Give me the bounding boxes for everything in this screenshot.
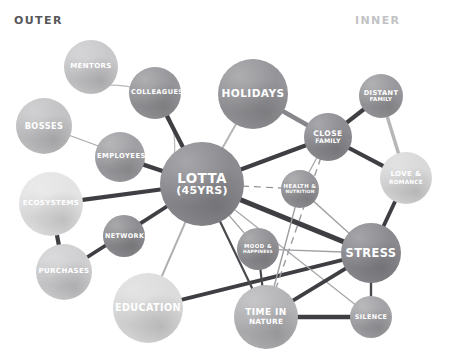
node-label-holidays: HOLIDAYS (220, 88, 286, 99)
node-education[interactable]: EDUCATION (113, 273, 183, 343)
node-close_family[interactable]: CLOSEFAMILY (304, 113, 352, 161)
node-label-mentors: MENTORS (66, 63, 116, 71)
node-label-employees: EMPLOYEES (97, 153, 143, 160)
node-label-colleagues: COLLEAGUES (131, 89, 179, 96)
node-label-ecosystems: ECOSYSTEMS (21, 200, 81, 208)
node-label-time_nature: TIME INNATURE (236, 308, 296, 326)
node-layer: MENTORSCOLLEAGUESBOSSESEMPLOYEESECOSYSTE… (0, 0, 449, 363)
node-label-lotta: LOTTA(45YRS) (162, 171, 242, 198)
node-networks[interactable]: NETWORKS (103, 215, 145, 257)
node-sublabel-distant_family: FAMILY (361, 97, 401, 103)
node-label-stress: STRESS (343, 247, 399, 259)
node-label-bosses: BOSSES (18, 122, 70, 131)
node-silence[interactable]: SILENCE (350, 296, 392, 338)
node-stress[interactable]: STRESS (341, 223, 401, 283)
node-sublabel-lotta: (45YRS) (162, 185, 242, 197)
node-label-close_family: CLOSEFAMILY (306, 130, 350, 145)
node-label-silence: SILENCE (352, 314, 390, 321)
node-label-education: EDUCATION (115, 303, 181, 313)
diagram-canvas: OUTER INNER MENTORSCOLLEAGUESBOSSESEMPLO… (0, 0, 449, 363)
node-love_romance[interactable]: LOVE &ROMANCE (380, 152, 432, 204)
node-colleagues[interactable]: COLLEAGUES (129, 67, 181, 119)
node-time_nature[interactable]: TIME INNATURE (234, 285, 298, 349)
node-mood[interactable]: MOOD &HAPPINESS (237, 228, 279, 270)
node-ecosystems[interactable]: ECOSYSTEMS (19, 172, 83, 236)
node-purchases[interactable]: PURCHASES (36, 244, 92, 300)
node-label-networks: NETWORKS (105, 233, 143, 240)
node-sublabel-mood: HAPPINESS (239, 250, 277, 255)
node-sublabel-health: NUTRITION (283, 190, 317, 195)
node-label-distant_family: DISTANTFAMILY (361, 90, 401, 103)
node-health[interactable]: HEALTH &NUTRITION (281, 170, 319, 208)
node-label-love_romance: LOVE &ROMANCE (382, 171, 430, 185)
node-sublabel-time_nature: NATURE (236, 318, 296, 326)
node-employees[interactable]: EMPLOYEES (95, 132, 145, 182)
node-label-purchases: PURCHASES (38, 268, 90, 276)
node-sublabel-love_romance: ROMANCE (382, 179, 430, 185)
node-bosses[interactable]: BOSSES (16, 98, 72, 154)
node-label-health: HEALTH &NUTRITION (283, 184, 317, 195)
node-distant_family[interactable]: DISTANTFAMILY (359, 74, 403, 118)
node-sublabel-close_family: FAMILY (306, 138, 350, 145)
node-holidays[interactable]: HOLIDAYS (218, 59, 288, 129)
node-label-mood: MOOD &HAPPINESS (239, 244, 277, 255)
node-lotta[interactable]: LOTTA(45YRS) (160, 142, 244, 226)
node-mentors[interactable]: MENTORS (64, 40, 118, 94)
